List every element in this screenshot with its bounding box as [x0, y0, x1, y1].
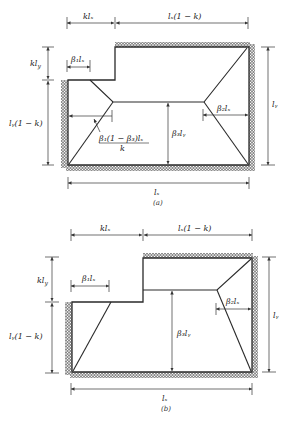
label-kly: kly: [30, 59, 41, 70]
caption-a: (a): [153, 199, 163, 207]
support-bottom-hatch: [70, 372, 258, 378]
label-kly: kly: [37, 276, 48, 287]
label-lx-1-k: lₓ(1 − k): [168, 12, 201, 21]
label-klx: klₓ: [100, 224, 110, 233]
label-beta3-ly: β₃lᵧ: [176, 329, 190, 338]
label-beta1-lx: β₁lₓ: [81, 274, 95, 283]
yield-line-left-diag: [69, 102, 113, 164]
label-lx-bottom: lₓ: [154, 188, 160, 197]
panel-a: klₓ lₓ(1 − k) kly lᵧ(1 − k) β₁lₓ β₁(1 − …: [9, 12, 278, 207]
label-ly-1-k: lᵧ(1 − k): [9, 332, 43, 341]
slab-yield-line-diagram: klₓ lₓ(1 − k) kly lᵧ(1 − k) β₁lₓ β₁(1 − …: [0, 0, 292, 422]
label-beta3-ly: β₃lᵧ: [171, 129, 185, 138]
label-ly-1-k: lᵧ(1 − k): [9, 119, 43, 128]
support-left-hatch: [65, 302, 72, 375]
panel-b: klₓ lₓ(1 − k) kly lᵧ(1 − k) β₁lₓ β₃lᵧ β₂…: [9, 224, 279, 413]
yield-line-top: [90, 48, 247, 102]
label-beta2-lx: β₂lₓ: [225, 297, 239, 306]
label-ly-right: lᵧ: [272, 100, 278, 109]
support-top-hatch: [143, 253, 253, 258]
support-left-hatch: [61, 80, 68, 168]
yield-line-ridge: [143, 259, 251, 290]
label-ly-right: lᵧ: [273, 311, 279, 320]
label-beta2-lx: β₂lₓ: [216, 104, 230, 113]
yield-line-left-diag: [73, 302, 111, 371]
label-formula-numerator: β₁(1 − β₃)lₓ: [98, 134, 143, 143]
support-bottom-hatch: [66, 165, 255, 171]
support-top-hatch: [115, 42, 250, 47]
label-formula-denominator: k: [120, 144, 125, 153]
slab-outline: [72, 258, 252, 372]
caption-b: (b): [161, 405, 171, 413]
label-klx: klₓ: [83, 12, 93, 21]
label-lx-bottom: lₓ: [162, 394, 168, 403]
support-right-hatch: [252, 256, 258, 375]
label-beta1-lx: β₁lₓ: [70, 55, 84, 64]
support-right-hatch: [249, 44, 255, 168]
label-lx-1-k: lₓ(1 − k): [178, 224, 211, 233]
